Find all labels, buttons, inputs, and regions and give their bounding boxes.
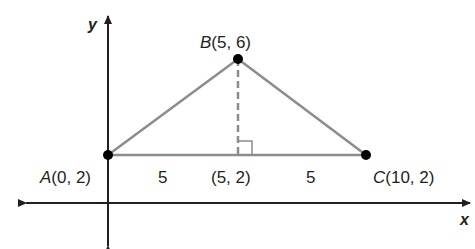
y-axis-label: y: [87, 16, 98, 33]
point-a-label: A(0, 2): [39, 168, 91, 187]
segment-left-length: 5: [158, 168, 167, 187]
point-c-coords: (10, 2): [385, 168, 434, 187]
point-b-name: B: [200, 33, 211, 52]
point-c-label: C(10, 2): [373, 168, 434, 187]
segment-bc: [238, 59, 366, 155]
foot-label: (5, 2): [211, 168, 251, 187]
point-a-coords: (0, 2): [51, 168, 91, 187]
coordinate-diagram: x y A(0, 2) B(5, 6) C(10, 2) (5, 2) 5 5: [0, 0, 475, 249]
x-axis-label: x: [459, 211, 470, 228]
point-a: [103, 150, 113, 160]
point-c: [361, 150, 371, 160]
point-a-name: A: [39, 168, 51, 187]
point-b-label: B(5, 6): [200, 33, 251, 52]
point-b-coords: (5, 6): [211, 33, 251, 52]
point-b: [233, 54, 243, 64]
right-angle-mark: [238, 141, 252, 155]
segment-ab: [108, 59, 238, 155]
point-c-name: C: [373, 168, 386, 187]
segment-right-length: 5: [306, 168, 315, 187]
